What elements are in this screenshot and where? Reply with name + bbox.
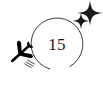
flight-countdown-illustration: 15 flight-countdown-badge airplane: [0, 0, 103, 88]
countdown-value: 15: [48, 35, 65, 54]
illustration-canvas: 15: [0, 0, 103, 88]
airplane-trail-icon: [25, 60, 35, 68]
